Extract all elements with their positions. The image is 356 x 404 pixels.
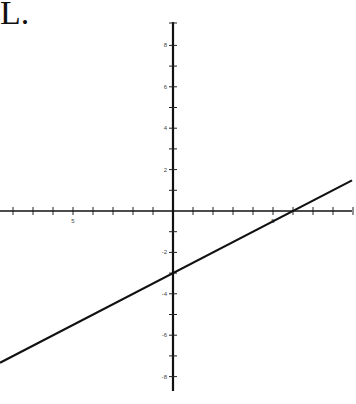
y-tick-label: -6 xyxy=(162,332,168,338)
y-tick-label: 6 xyxy=(164,84,168,90)
y-tick-label: -8 xyxy=(162,374,168,380)
y-tick-label: 8 xyxy=(164,42,168,48)
y-tick-label: -2 xyxy=(162,249,168,255)
y-tick-label: 2 xyxy=(164,167,168,173)
coordinate-plane-chart: 558642-2-4-6-8 xyxy=(0,0,356,404)
y-tick-label: 4 xyxy=(164,125,168,131)
y-tick-label: -4 xyxy=(162,291,168,297)
x-tick-label: 5 xyxy=(71,218,75,224)
